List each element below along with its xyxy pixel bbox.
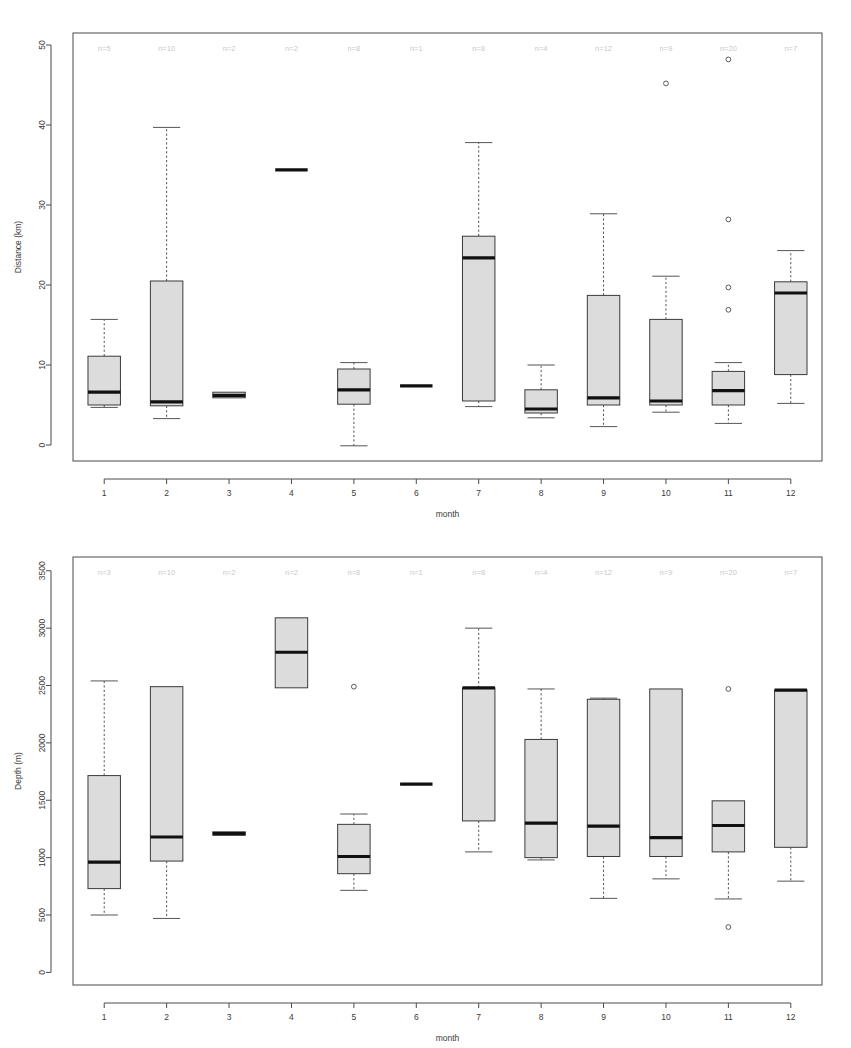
count-annotation: n=1 — [410, 44, 423, 53]
count-annotation: n=20 — [720, 568, 737, 577]
x-axis-tick-label: 12 — [786, 488, 796, 498]
count-annotation: n=10 — [158, 568, 175, 577]
x-axis-tick-label: 2 — [164, 1012, 169, 1022]
outlier-point — [726, 285, 731, 290]
boxplot-box — [587, 214, 619, 427]
y-axis-tick-label: 2000 — [37, 733, 47, 752]
x-axis-tick-label: 4 — [289, 488, 294, 498]
x-axis-tick-label: 5 — [352, 488, 357, 498]
x-axis-tick-label: 6 — [414, 488, 419, 498]
x-axis-tick-label: 4 — [289, 1012, 294, 1022]
distance-boxplot-panel: 01020304050Distance (km)123456789101112m… — [0, 0, 851, 524]
x-axis-tick-label: 1 — [102, 1012, 107, 1022]
box-rect — [712, 371, 744, 405]
x-axis-tick-label: 12 — [786, 1012, 796, 1022]
y-axis-tick-label: 1000 — [37, 848, 47, 867]
depth-boxplot-panel: 0500100015002000250030003500Depth (m)123… — [0, 524, 851, 1048]
box-rect — [775, 690, 807, 847]
y-axis-title: Distance (km) — [13, 221, 23, 274]
count-annotation: n=2 — [223, 44, 236, 53]
boxplot-box — [275, 618, 307, 688]
box-rect — [587, 295, 619, 405]
boxplot-box — [712, 57, 744, 423]
count-annotation: n=2 — [285, 568, 298, 577]
boxplot-box — [462, 143, 494, 407]
boxplot-box — [213, 392, 245, 398]
outlier-point — [726, 307, 731, 312]
boxplot-box — [338, 363, 370, 446]
box-rect — [88, 356, 120, 405]
boxplot-box — [213, 832, 245, 835]
boxplot-box — [650, 689, 682, 879]
count-annotation: n=7 — [784, 568, 797, 577]
boxplot-box — [338, 684, 370, 890]
count-annotation: n=4 — [535, 44, 548, 53]
y-axis-tick-label: 40 — [37, 120, 47, 130]
box-rect — [650, 319, 682, 405]
y-axis-title: Depth (m) — [13, 752, 23, 790]
x-axis-tick-label: 10 — [661, 488, 671, 498]
y-axis-tick-label: 50 — [37, 40, 47, 50]
boxplot-box — [587, 698, 619, 898]
x-axis-tick-label: 7 — [476, 1012, 481, 1022]
boxplot-box — [150, 687, 182, 919]
x-axis-tick-label: 1 — [102, 488, 107, 498]
box-rect — [150, 281, 182, 406]
x-axis-tick-label: 9 — [601, 488, 606, 498]
plot-frame — [73, 33, 822, 461]
count-annotation: n=7 — [784, 44, 797, 53]
y-axis-tick-label: 10 — [37, 360, 47, 370]
y-axis-tick-label: 0 — [37, 442, 47, 447]
y-axis-tick-label: 0 — [37, 970, 47, 975]
x-axis-tick-label: 5 — [352, 1012, 357, 1022]
boxplot-box — [775, 251, 807, 404]
x-axis-title: month — [436, 1033, 460, 1043]
count-annotation: n=8 — [472, 44, 485, 53]
count-annotation: n=1 — [410, 568, 423, 577]
count-annotation: n=9 — [660, 44, 673, 53]
count-annotation: n=8 — [472, 568, 485, 577]
y-axis-tick-label: 500 — [37, 908, 47, 922]
outlier-point — [726, 57, 731, 62]
x-axis-tick-label: 3 — [227, 1012, 232, 1022]
outlier-point — [726, 687, 731, 692]
box-rect — [462, 688, 494, 821]
box-rect — [150, 687, 182, 861]
boxplot-box — [88, 319, 120, 407]
outlier-point — [726, 925, 731, 930]
x-axis-tick-label: 2 — [164, 488, 169, 498]
count-annotation: n=2 — [285, 44, 298, 53]
boxplot-box — [650, 81, 682, 412]
box-rect — [587, 699, 619, 856]
boxplot-box — [525, 365, 557, 418]
outlier-point — [664, 81, 669, 86]
count-annotation: n=12 — [595, 568, 612, 577]
count-annotation: n=9 — [660, 568, 673, 577]
boxplot-box — [150, 127, 182, 418]
box-rect — [338, 369, 370, 404]
y-axis-tick-label: 3500 — [37, 561, 47, 580]
x-axis-tick-label: 6 — [414, 1012, 419, 1022]
count-annotation: n=8 — [348, 44, 361, 53]
depth-boxplot-svg: 0500100015002000250030003500Depth (m)123… — [0, 524, 851, 1048]
box-rect — [775, 282, 807, 375]
x-axis-tick-label: 9 — [601, 1012, 606, 1022]
box-rect — [88, 776, 120, 889]
figure-page: 01020304050Distance (km)123456789101112m… — [0, 0, 851, 1048]
boxplot-box — [775, 690, 807, 881]
box-rect — [462, 236, 494, 401]
x-axis-tick-label: 7 — [476, 488, 481, 498]
count-annotation: n=8 — [348, 568, 361, 577]
plot-frame — [73, 557, 822, 985]
boxplot-box — [88, 681, 120, 915]
x-axis-tick-label: 8 — [539, 488, 544, 498]
count-annotation: n=5 — [98, 44, 111, 53]
x-axis-tick-label: 8 — [539, 1012, 544, 1022]
x-axis-tick-label: 3 — [227, 488, 232, 498]
x-axis-tick-label: 10 — [661, 1012, 671, 1022]
y-axis-tick-label: 20 — [37, 280, 47, 290]
boxplot-box — [712, 687, 744, 930]
box-rect — [650, 689, 682, 857]
distance-boxplot-svg: 01020304050Distance (km)123456789101112m… — [0, 0, 851, 524]
x-axis-tick-label: 11 — [724, 488, 733, 498]
